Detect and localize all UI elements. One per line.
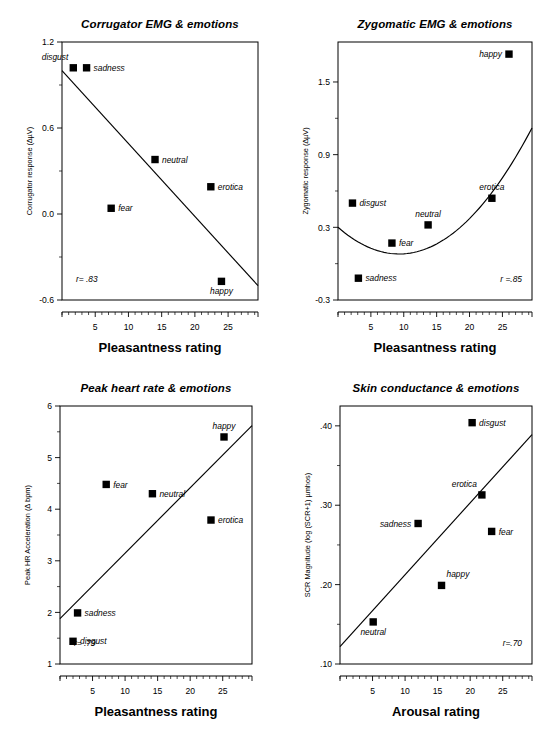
data-point-label: sadness [94, 63, 126, 73]
y-tick-label: 1 [47, 659, 52, 669]
x-tick-label: 25 [218, 686, 228, 696]
y-tick-label: 3 [47, 556, 52, 566]
data-point-marker [488, 195, 495, 202]
data-point-label: happy [210, 286, 234, 296]
x-tick-label: 10 [120, 686, 130, 696]
data-point-marker [478, 491, 485, 498]
x-tick-label: 15 [153, 686, 163, 696]
data-point-marker [207, 516, 214, 523]
y-axis-title: SCR Magnitude (log (SCR+1) µmhos) [303, 473, 312, 597]
x-tick-label: 10 [124, 322, 134, 332]
chart-canvas: Corrugator EMG & emotions-0.60.00.61.251… [0, 0, 278, 364]
data-point-label: neutral [360, 627, 387, 637]
x-axis-title: Pleasantness rating [374, 340, 497, 355]
x-tick-label: 20 [465, 686, 475, 696]
x-tick-label: 10 [400, 686, 410, 696]
data-point-marker [468, 419, 475, 426]
data-point-label: fear [113, 480, 129, 490]
panel-title: Skin conductance & emotions [353, 382, 520, 394]
y-tick-label: 0.0 [42, 209, 54, 219]
data-point-marker [83, 64, 90, 71]
y-tick-label: .40 [320, 421, 332, 431]
figure-grid: Corrugator EMG & emotions-0.60.00.61.251… [0, 0, 557, 729]
data-point-marker [424, 221, 431, 228]
data-point-marker [70, 64, 77, 71]
y-tick-label: 1.5 [318, 77, 330, 87]
x-tick-label: 20 [190, 322, 200, 332]
chart-canvas: Zygomatic EMG & emotions-0.30.30.91.5510… [278, 0, 557, 364]
correlation-annotation: r=.70 [503, 638, 523, 648]
chart-canvas: Peak heart rate & emotions12345651015202… [0, 364, 278, 729]
panel-title: Corrugator EMG & emotions [81, 18, 239, 30]
data-point-label: fear [499, 527, 515, 537]
y-tick-label: .20 [320, 580, 332, 590]
data-point-marker [369, 618, 376, 625]
plot-frame [338, 42, 532, 300]
x-axis-title: Pleasantness rating [95, 704, 218, 719]
data-point-label: erotica [479, 182, 504, 192]
y-tick-label: 0.9 [318, 150, 330, 160]
y-tick-label: .10 [320, 659, 332, 669]
data-point-marker [207, 183, 214, 190]
y-axis-title: Corrugator response (∆µV) [25, 127, 34, 215]
x-tick-label: 25 [498, 322, 508, 332]
data-point-marker [220, 433, 227, 440]
data-point-marker [151, 156, 158, 163]
data-point-label: sadness [380, 519, 412, 529]
x-tick-label: 5 [93, 322, 98, 332]
data-point-label: fear [118, 203, 134, 213]
y-tick-label: -0.6 [39, 295, 54, 305]
correlation-annotation: r= .79 [74, 638, 96, 648]
x-tick-label: 15 [432, 322, 442, 332]
y-tick-label: 6 [47, 401, 52, 411]
data-point-label: neutral [415, 209, 442, 219]
data-point-label: erotica [218, 515, 243, 525]
x-axis-title: Arousal rating [392, 704, 480, 719]
x-tick-label: 5 [370, 686, 375, 696]
data-point-label: neutral [159, 489, 186, 499]
panel-corrugator-emg: Corrugator EMG & emotions-0.60.00.61.251… [0, 0, 278, 364]
x-tick-label: 10 [399, 322, 409, 332]
data-point-label: happy [479, 49, 503, 59]
data-point-label: sadness [85, 608, 117, 618]
data-point-label: erotica [218, 182, 243, 192]
x-tick-label: 5 [90, 686, 95, 696]
data-point-marker [107, 205, 114, 212]
correlation-annotation: r =.85 [500, 274, 522, 284]
correlation-annotation: r= .83 [76, 274, 98, 284]
regression-line [340, 435, 532, 647]
plot-frame [62, 42, 258, 300]
data-point-label: happy [447, 569, 471, 579]
x-tick-label: 20 [185, 686, 195, 696]
y-tick-label: -0.3 [315, 295, 330, 305]
data-point-marker [349, 199, 356, 206]
data-point-label: disgust [42, 52, 69, 62]
data-point-marker [218, 278, 225, 285]
y-tick-label: 0.6 [42, 123, 54, 133]
y-tick-label: 5 [47, 453, 52, 463]
data-point-marker [74, 609, 81, 616]
panel-zygomatic-emg: Zygomatic EMG & emotions-0.30.30.91.5510… [278, 0, 557, 364]
data-point-label: neutral [162, 155, 189, 165]
x-tick-label: 5 [368, 322, 373, 332]
data-point-marker [355, 274, 362, 281]
data-point-marker [414, 520, 421, 527]
x-tick-label: 15 [157, 322, 167, 332]
x-axis-title: Pleasantness rating [99, 340, 222, 355]
y-axis-title: Zygomatic response (∆µV) [301, 127, 310, 214]
plot-frame [60, 406, 252, 664]
x-tick-label: 25 [223, 322, 233, 332]
panel-title: Peak heart rate & emotions [81, 382, 232, 394]
x-tick-label: 20 [465, 322, 475, 332]
data-point-label: erotica [452, 479, 477, 489]
y-tick-label: 4 [47, 504, 52, 514]
data-point-label: fear [399, 238, 415, 248]
x-tick-label: 15 [433, 686, 443, 696]
panel-title: Zygomatic EMG & emotions [356, 18, 512, 30]
data-point-label: sadness [365, 273, 397, 283]
regression-line [62, 71, 258, 286]
data-point-label: happy [213, 421, 237, 431]
y-tick-label: 1.2 [42, 37, 54, 47]
data-point-marker [505, 50, 512, 57]
data-point-label: disgust [479, 418, 506, 428]
